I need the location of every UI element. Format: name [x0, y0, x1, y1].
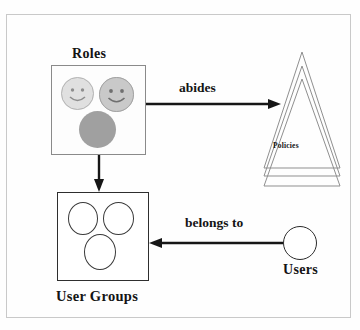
- users-circle[interactable]: [283, 226, 317, 260]
- abides-relation-label: abides: [179, 80, 216, 96]
- role-smiley-circle-1: [61, 77, 94, 110]
- role-smiley-circle-2: [99, 77, 134, 112]
- user-group-ellipse-1: [68, 202, 98, 235]
- diagram-canvas: Policies Roles User Groups: [0, 0, 360, 330]
- roles-box[interactable]: [51, 65, 146, 155]
- belongs-to-relation-label: belongs to: [185, 215, 243, 231]
- role-solid-circle-3: [79, 111, 116, 148]
- user-groups-label: User Groups: [56, 288, 138, 305]
- policies-label: Policies: [273, 141, 299, 150]
- users-label: Users: [283, 262, 318, 278]
- user-groups-box[interactable]: [57, 192, 149, 281]
- smiley-icon: [61, 77, 94, 110]
- roles-label: Roles: [72, 46, 106, 62]
- user-group-ellipse-3: [84, 234, 116, 270]
- smiley-icon: [99, 77, 134, 112]
- user-group-ellipse-2: [103, 202, 134, 235]
